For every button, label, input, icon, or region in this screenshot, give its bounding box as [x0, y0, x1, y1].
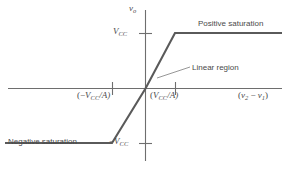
linear-region-label: Linear region	[192, 64, 239, 72]
y-axis-label: vo	[129, 4, 136, 13]
y-tick-label-negative: −VCC	[109, 137, 128, 146]
x-tick-label-negative: (−VCC/A)	[77, 91, 110, 100]
x-axis-label: (v2 − v1)	[238, 91, 268, 100]
y-tick-label-positive: VCC	[113, 27, 127, 36]
linear-region-leader-line	[157, 67, 190, 78]
x-tick-label-positive: (VCC/A)	[150, 91, 178, 100]
positive-saturation-label: Positive saturation	[198, 20, 263, 28]
negative-saturation-label: Negative saturation	[8, 138, 77, 146]
transfer-characteristic-figure: vo VCC −VCC (−VCC/A) (VCC/A) (v2 − v1) P…	[0, 0, 287, 169]
